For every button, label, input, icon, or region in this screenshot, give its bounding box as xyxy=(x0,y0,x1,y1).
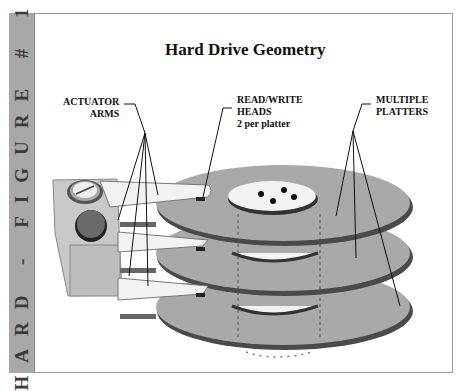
platter-top xyxy=(156,165,413,246)
label-read-write-heads: READ/WRITE HEADS 2 per platter xyxy=(237,94,303,130)
label-multiple-platters: MULTIPLE PLATTERS xyxy=(376,94,428,118)
label-actuator-arms: ACTUATOR ARMS xyxy=(63,96,119,120)
